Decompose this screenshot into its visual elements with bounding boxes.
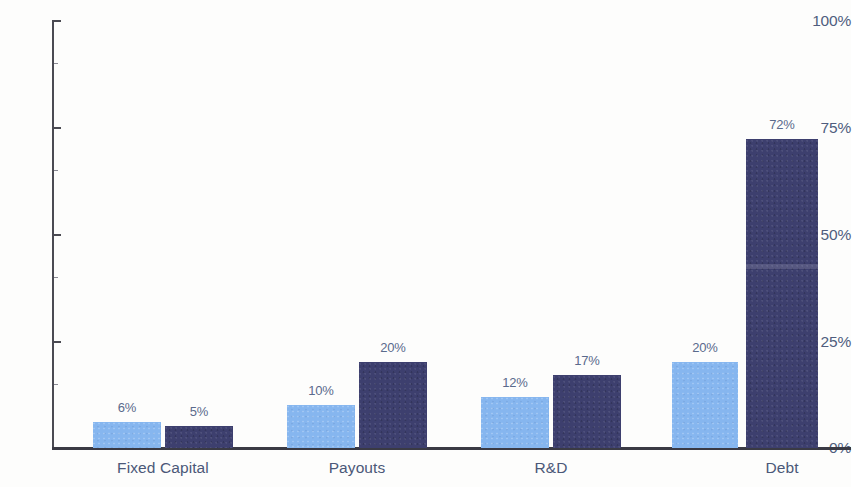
bar-debt-light xyxy=(672,362,738,448)
category-label-payouts: Payouts xyxy=(267,459,447,477)
bar-label-rd-dark: 17% xyxy=(553,353,621,368)
bar-label-fixed-capital-dark: 5% xyxy=(165,404,233,419)
bar-fixed-capital-dark xyxy=(165,426,233,448)
bar-fixed-capital-light xyxy=(93,422,161,448)
bar-rd-light xyxy=(481,397,549,448)
bar-label-debt-dark: 72% xyxy=(746,117,818,132)
bar-label-fixed-capital-light: 6% xyxy=(93,400,161,415)
category-label-fixed-capital: Fixed Capital xyxy=(73,459,253,477)
bar-label-rd-light: 12% xyxy=(481,375,549,390)
scan-artifact xyxy=(746,264,818,269)
bar-label-debt-light: 20% xyxy=(672,340,738,355)
bar-label-payouts-light: 10% xyxy=(287,383,355,398)
category-label-debt: Debt xyxy=(692,459,856,477)
bar-payouts-dark xyxy=(359,362,427,448)
bar-debt-dark xyxy=(746,139,818,448)
bar-label-payouts-dark: 20% xyxy=(359,340,427,355)
category-label-rd: R&D xyxy=(461,459,641,477)
bar-payouts-light xyxy=(287,405,355,448)
bar-rd-dark xyxy=(553,375,621,448)
